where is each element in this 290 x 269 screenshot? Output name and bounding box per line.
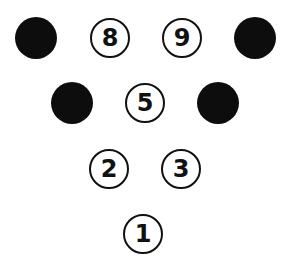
pin-number-label: 1: [135, 222, 152, 246]
pin-3-standing: 3: [161, 149, 201, 189]
pin-6-knocked: [197, 82, 239, 124]
pin-9-standing: 9: [162, 18, 202, 58]
pin-number-label: 9: [174, 26, 191, 50]
pin-number-label: 8: [102, 26, 119, 50]
pin-number-label: 2: [101, 157, 118, 181]
pin-8-standing: 8: [90, 18, 130, 58]
pin-2-standing: 2: [89, 149, 129, 189]
pin-number-label: 3: [173, 157, 190, 181]
pin-number-label: 5: [137, 91, 154, 115]
pin-10-knocked: [234, 17, 276, 59]
pin-1-standing: 1: [123, 214, 163, 254]
pin-5-standing: 5: [125, 83, 165, 123]
pin-4-knocked: [51, 82, 93, 124]
pin-7-knocked: [15, 17, 57, 59]
